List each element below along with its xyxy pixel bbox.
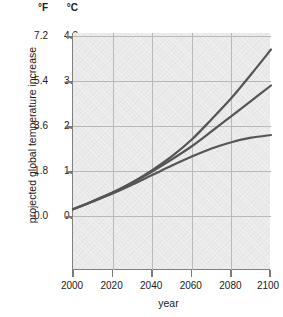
x-tick-mark-2060 (191, 270, 193, 277)
y-tick-f-3: 5.4 (22, 75, 48, 87)
x-tick-mark-2020 (112, 270, 114, 277)
x-tick-label-2000: 2000 (52, 280, 92, 291)
x-tick-mark-2080 (230, 270, 232, 277)
unit-header-celsius: °C (52, 2, 78, 13)
x-tick-mark-2000 (72, 270, 74, 277)
x-axis-title: year (0, 297, 283, 309)
curve-high-scenario (73, 50, 271, 210)
x-tick-label-2060: 2060 (171, 280, 211, 291)
unit-header-fahrenheit: °F (22, 2, 48, 13)
plot-area (72, 33, 270, 270)
x-tick-label-2100: 2100 (248, 280, 283, 291)
x-tick-label-2080: 2080 (210, 280, 250, 291)
temperature-projection-chart: °F °C projected global temperature incre… (0, 0, 283, 317)
y-tick-f-1: 1.8 (22, 165, 48, 177)
y-tick-f-0: 0.0 (22, 210, 48, 222)
unit-header-row: °F °C (0, 2, 283, 18)
x-tick-mark-2040 (151, 270, 153, 277)
y-tick-f-4: 7.2 (22, 30, 48, 42)
curve-layer (73, 33, 271, 270)
curve-mid-scenario (73, 86, 271, 210)
x-axis-title-text: year (158, 297, 178, 309)
y-axis-title: projected global temperature increase (25, 30, 39, 240)
y-tick-f-2: 3.6 (22, 120, 48, 132)
x-tick-label-2040: 2040 (131, 280, 171, 291)
x-tick-mark-2100 (269, 270, 271, 277)
curve-low-scenario (73, 135, 271, 209)
x-tick-label-2020: 2020 (92, 280, 132, 291)
